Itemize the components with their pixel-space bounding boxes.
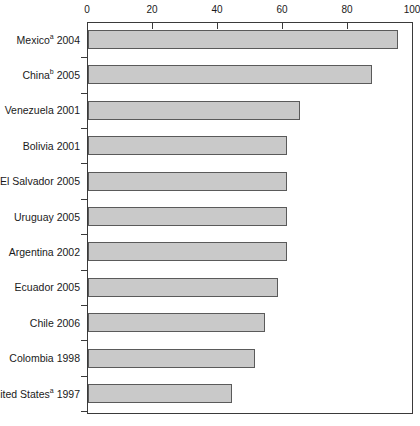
y-tick-4 <box>81 199 88 200</box>
y-tick-1 <box>81 93 88 94</box>
bar-colombia <box>88 349 255 368</box>
y-tick-5 <box>81 234 88 235</box>
x-tick-label-60: 60 <box>276 5 287 15</box>
y-tick-6 <box>81 270 88 271</box>
x-tick-label-40: 40 <box>211 5 222 15</box>
category-label-chile: Chile 2006 <box>30 317 80 328</box>
bar-bolivia <box>88 136 287 155</box>
y-tick-7 <box>81 305 88 306</box>
x-tick-label-20: 20 <box>146 5 157 15</box>
y-tick-3 <box>81 163 88 164</box>
y-tick-0 <box>81 57 88 58</box>
category-label-colombia: Colombia 1998 <box>9 353 80 364</box>
category-label-argentina: Argentina 2002 <box>9 246 80 257</box>
y-tick-10 <box>81 411 88 412</box>
x-tick-80 <box>347 22 348 29</box>
axis-line-right <box>412 22 413 414</box>
x-tick-label-100: 100 <box>404 5 420 15</box>
bar-argentina <box>88 242 287 261</box>
category-label-china: Chinab 2005 <box>22 69 80 80</box>
category-label-uruguay: Uruguay 2005 <box>14 211 80 222</box>
y-tick-9 <box>81 376 88 377</box>
category-label-el-salvador: El Salvador 2005 <box>0 176 80 187</box>
bar-ecuador <box>88 278 278 297</box>
bar-chile <box>88 313 265 332</box>
bar-china <box>88 65 372 84</box>
category-label-bolivia: Bolivia 2001 <box>23 140 80 151</box>
bar-united-states <box>88 384 232 403</box>
x-tick-100 <box>412 22 413 29</box>
category-label-venezuela: Venezuela 2001 <box>5 105 80 116</box>
axis-line-bottom <box>87 413 413 414</box>
x-tick-0 <box>87 22 88 29</box>
x-tick-40 <box>217 22 218 29</box>
x-tick-label-80: 80 <box>341 5 352 15</box>
category-label-mexico: Mexicoa 2004 <box>17 34 80 45</box>
bar-el-salvador <box>88 172 287 191</box>
y-tick-8 <box>81 340 88 341</box>
x-tick-20 <box>152 22 153 29</box>
bar-uruguay <box>88 207 287 226</box>
x-tick-label-0: 0 <box>84 5 90 15</box>
y-tick-2 <box>81 128 88 129</box>
x-tick-60 <box>282 22 283 29</box>
axis-line-top <box>87 22 413 23</box>
category-label-united-states: United Statesa 1997 <box>0 388 80 399</box>
bar-mexico <box>88 30 398 49</box>
bar-venezuela <box>88 101 300 120</box>
category-label-ecuador: Ecuador 2005 <box>15 282 80 293</box>
